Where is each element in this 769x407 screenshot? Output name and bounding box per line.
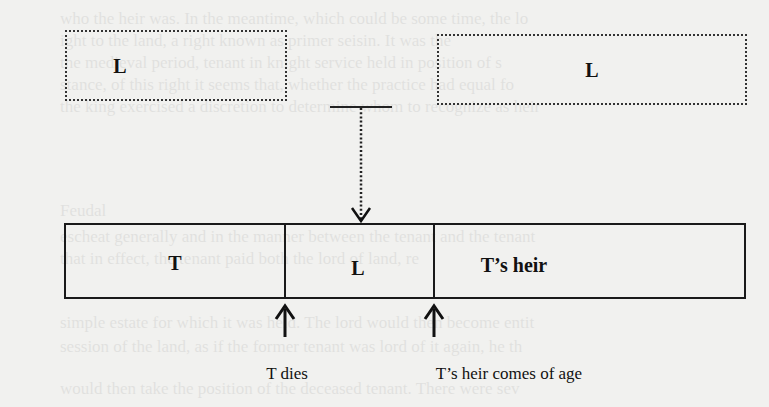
top-box-left: [65, 30, 287, 101]
event-t-dies: T dies: [266, 364, 308, 384]
background-text-line: would then take the position of the dece…: [60, 378, 769, 400]
divider-l-heir: [433, 223, 435, 299]
segment-t-label: T: [168, 252, 181, 275]
background-text-line: Feudal: [60, 200, 769, 222]
divider-t-l: [284, 223, 286, 299]
background-text-line: who the heir was. In the meantime, which…: [60, 8, 769, 30]
background-text-line: simple estate for which it was held. The…: [60, 312, 769, 334]
segment-l-label: L: [351, 257, 364, 280]
top-box-right-label: L: [585, 59, 598, 82]
event-heir-comes-of-age: T’s heir comes of age: [436, 364, 582, 384]
background-text-line: session of the land, as if the former te…: [60, 336, 769, 358]
segment-heir-label: T’s heir: [481, 254, 547, 277]
timeline-bar: [64, 223, 746, 299]
top-box-left-label: L: [113, 55, 126, 78]
